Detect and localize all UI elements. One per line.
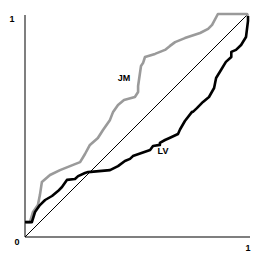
x-max-label: 1 [245,243,250,253]
y-max-label: 1 [9,14,14,24]
series-lv-label: LV [158,146,169,156]
series-jm-label: JM [118,73,131,83]
diagonal-line [25,14,248,237]
chart-area: 0 1 1 JM LV [0,0,263,261]
origin-label: 0 [14,237,19,247]
